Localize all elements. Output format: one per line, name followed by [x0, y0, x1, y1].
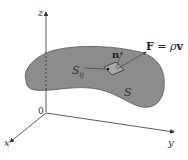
- field-label: F = ρv: [146, 40, 184, 53]
- x-axis: [10, 113, 46, 142]
- surface-label: S: [124, 86, 132, 99]
- z-axis-label: z: [37, 7, 44, 18]
- x-axis-label: x: [4, 137, 10, 148]
- normal-label: n: [112, 49, 120, 60]
- y-axis-label: y: [167, 137, 174, 148]
- y-axis: [46, 113, 174, 132]
- patch-point: [107, 68, 109, 70]
- surface-flux-diagram: z y x 0 S Sij n F = ρv: [0, 0, 188, 160]
- origin-label: 0: [38, 106, 44, 116]
